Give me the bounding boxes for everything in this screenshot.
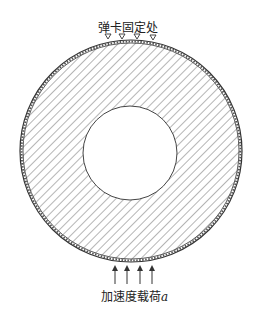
- inner-hole: [83, 106, 177, 200]
- acceleration-arrows: [115, 268, 152, 284]
- clamp-triangle-icon: [150, 35, 156, 40]
- acceleration-load-text: 加速度载荷: [101, 290, 161, 304]
- annulus-diagram: [0, 0, 261, 318]
- acceleration-symbol: a: [161, 290, 168, 304]
- acceleration-load-label: 加速度载荷a: [101, 287, 168, 304]
- clamp-location-label: 弹卡固定处: [98, 18, 158, 35]
